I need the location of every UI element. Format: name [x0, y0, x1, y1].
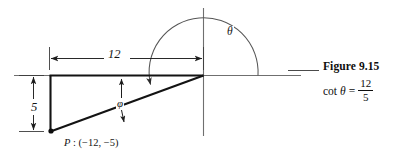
- figure-container: 12 5 θ φ P : (−12, −5) Figure 9.15 cot θ…: [0, 0, 409, 160]
- formula-fraction: 12 5: [358, 78, 373, 104]
- dimension-horizontal: [50, 47, 204, 70]
- formula-equals: =: [349, 85, 356, 97]
- caption-rule: [288, 70, 319, 71]
- point-label-separator: :: [70, 137, 78, 148]
- dimension-label-12: 12: [106, 48, 123, 61]
- caption-title: Figure 9.15: [323, 60, 409, 73]
- triangle-hypotenuse: [51, 76, 204, 132]
- point-label-coordinates: (−12, −5): [79, 137, 119, 148]
- formula-denominator: 5: [361, 92, 371, 104]
- point-label-p: P : (−12, −5): [64, 138, 118, 149]
- phi-arrow-down: [122, 110, 125, 122]
- formula-function: cot: [323, 85, 337, 97]
- dimension-label-5: 5: [29, 100, 39, 115]
- angle-label-phi: φ: [116, 98, 124, 109]
- formula-variable: θ: [340, 85, 346, 97]
- caption-block: Figure 9.15 cot θ = 12 5: [323, 60, 409, 104]
- point-p-marker: [48, 128, 53, 133]
- angle-label-theta: θ: [226, 26, 234, 38]
- reference-triangle: [48, 76, 203, 134]
- formula-numerator: 12: [358, 78, 373, 90]
- caption-formula: cot θ = 12 5: [323, 78, 409, 104]
